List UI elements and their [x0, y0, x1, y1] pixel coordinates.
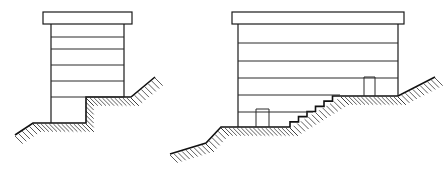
building-sections-diagram: [0, 0, 448, 184]
ground-hatching: [170, 78, 443, 163]
ground-hatching: [15, 78, 163, 144]
left-building: [15, 12, 163, 144]
roof-slab: [43, 12, 132, 24]
ground-line: [170, 77, 435, 154]
right-building: [170, 12, 443, 163]
roof-slab: [232, 12, 404, 24]
diagram-canvas: [0, 0, 448, 184]
upper-door: [364, 77, 375, 96]
ground-line: [15, 77, 155, 135]
